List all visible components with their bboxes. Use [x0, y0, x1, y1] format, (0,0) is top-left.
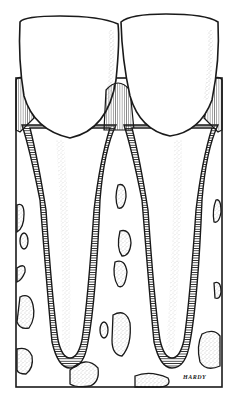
artist-signature: HARDY	[183, 374, 206, 380]
dental-illustration	[0, 0, 238, 402]
